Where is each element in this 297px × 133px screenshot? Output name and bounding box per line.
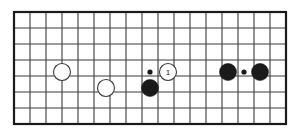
white-stone-disc: [54, 64, 71, 81]
black-stone[interactable]: [142, 80, 159, 97]
go-board-diagram: 1: [0, 0, 297, 133]
star-point: [241, 69, 246, 74]
black-stone[interactable]: [220, 64, 237, 81]
board-background: [0, 0, 297, 133]
black-stone-disc: [220, 64, 237, 81]
black-stone-disc: [252, 64, 269, 81]
white-stone[interactable]: 1: [160, 64, 177, 81]
go-board-canvas: 1: [0, 0, 297, 133]
stone-move-number: 1: [166, 68, 171, 77]
star-point: [147, 69, 152, 74]
black-stone-disc: [142, 80, 159, 97]
black-stone[interactable]: [252, 64, 269, 81]
white-stone[interactable]: [98, 80, 115, 97]
white-stone[interactable]: [54, 64, 71, 81]
white-stone-disc: [98, 80, 115, 97]
